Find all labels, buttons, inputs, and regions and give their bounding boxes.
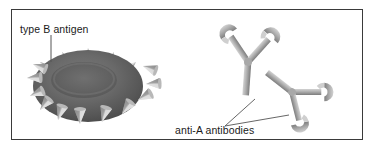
- label-anti-a-antibodies: anti-A antibodies: [175, 124, 254, 136]
- cell-central-dimple: [51, 62, 117, 98]
- figure-container: type B antigen anti-A antibodies: [0, 0, 375, 151]
- anti-a-antibody-lower: [247, 47, 343, 142]
- anti-a-antibody-upper: [211, 19, 285, 97]
- red-blood-cell-type-b: [27, 48, 162, 124]
- label-type-b-antigen: type B antigen: [20, 23, 89, 35]
